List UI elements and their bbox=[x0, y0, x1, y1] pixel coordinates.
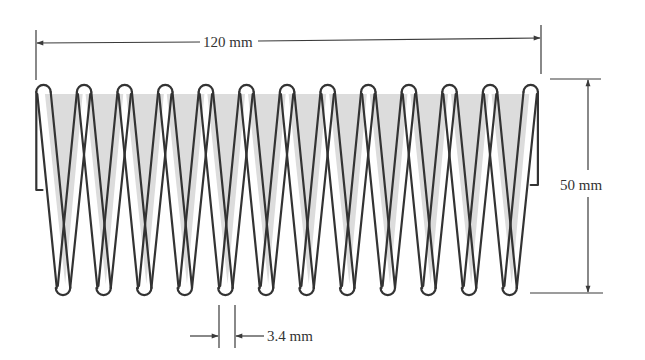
shade-triangle bbox=[492, 94, 530, 284]
bottom-coil-loop bbox=[381, 288, 395, 295]
shade-triangle bbox=[45, 94, 83, 284]
spring-diagram: 120 mm 50 mm 3.4 mm bbox=[0, 0, 645, 360]
bottom-coil-loop bbox=[421, 288, 435, 295]
shade-triangle bbox=[167, 94, 205, 284]
top-coil-loop bbox=[199, 85, 213, 92]
bottom-coil-loop bbox=[137, 288, 151, 295]
wire-diameter-label: 3.4 mm bbox=[267, 328, 313, 344]
bottom-coil-loop bbox=[299, 288, 313, 295]
bottom-coil-loop bbox=[340, 288, 354, 295]
shade-triangle bbox=[126, 94, 164, 284]
top-coil-loop bbox=[36, 85, 50, 92]
diameter-dimension: 50 mm bbox=[530, 79, 603, 293]
spring-back-shading bbox=[45, 94, 529, 284]
shade-triangle bbox=[207, 94, 245, 284]
top-coil-loop bbox=[280, 85, 294, 92]
bottom-coil-loop bbox=[502, 288, 516, 295]
diameter-label: 50 mm bbox=[560, 177, 602, 193]
bottom-coil-loop bbox=[218, 288, 232, 295]
top-coil-loop bbox=[118, 85, 132, 92]
top-coil-loop bbox=[239, 85, 253, 92]
shade-triangle bbox=[289, 94, 327, 284]
top-coil-loop bbox=[524, 85, 538, 92]
top-coil-loop bbox=[483, 85, 497, 92]
length-label: 120 mm bbox=[203, 34, 253, 50]
top-coil-loop bbox=[402, 85, 416, 92]
length-arrow-left bbox=[37, 42, 200, 43]
wire-diameter-dimension: 3.4 mm bbox=[190, 305, 313, 348]
bottom-coil-loop bbox=[96, 288, 110, 295]
shade-triangle bbox=[451, 94, 489, 284]
top-coil-loop bbox=[361, 85, 375, 92]
top-coil-loop bbox=[442, 85, 456, 92]
bottom-coil-loop bbox=[178, 288, 192, 295]
bottom-coil-loop bbox=[56, 288, 70, 295]
bottom-coil-loop bbox=[462, 288, 476, 295]
top-coil-loop bbox=[77, 85, 91, 92]
shade-triangle bbox=[370, 94, 408, 284]
bottom-coil-loop bbox=[259, 288, 273, 295]
shade-triangle bbox=[329, 94, 367, 284]
top-coil-loop bbox=[321, 85, 335, 92]
shade-triangle bbox=[248, 94, 286, 284]
shade-triangle bbox=[410, 94, 448, 284]
length-dimension: 120 mm bbox=[36, 25, 541, 80]
top-coil-loop bbox=[158, 85, 172, 92]
length-arrow-right bbox=[258, 38, 540, 41]
shade-triangle bbox=[86, 94, 124, 284]
